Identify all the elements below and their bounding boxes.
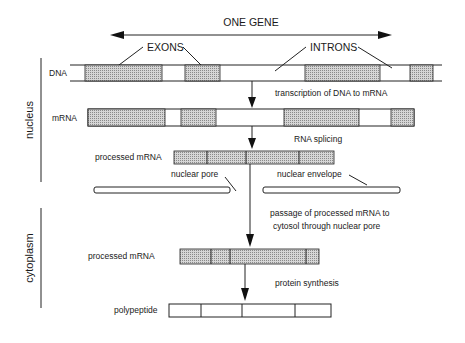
exons-label: EXONS bbox=[147, 41, 184, 53]
mrna-exon-1 bbox=[88, 109, 165, 126]
mrna-exon-3 bbox=[284, 109, 359, 126]
one-gene-span-arrow bbox=[110, 31, 392, 39]
processed-mrna-cytoplasm bbox=[180, 249, 319, 264]
mrna-label: mRNA bbox=[52, 113, 77, 123]
gene-title: ONE GENE bbox=[223, 16, 278, 28]
dna-strand bbox=[70, 65, 442, 81]
arrow-down-icon bbox=[248, 97, 256, 108]
mrna-strand bbox=[88, 109, 414, 126]
arrow-left-icon bbox=[110, 31, 124, 39]
arrow-down-icon bbox=[248, 138, 256, 149]
cytoplasm-label: cytoplasm bbox=[23, 233, 35, 283]
processed-mrna-cytoplasm-label: processed mRNA bbox=[88, 251, 155, 261]
processed-mrna-nucleus-label: processed mRNA bbox=[95, 152, 162, 162]
mrna-exon-4 bbox=[391, 109, 414, 126]
nuclear-envelope-label: nuclear envelope bbox=[277, 169, 342, 179]
dna-label: DNA bbox=[49, 68, 67, 78]
polypeptide-chain bbox=[169, 304, 331, 317]
passage-label-line2: cytosol through nuclear pore bbox=[273, 221, 381, 231]
dna-exon-2 bbox=[185, 65, 220, 81]
dna-exon-4 bbox=[410, 65, 433, 81]
passage-label-line1: passage of processed mRNA to bbox=[270, 208, 390, 218]
arrow-down-icon bbox=[241, 288, 249, 301]
protein-synthesis-label: protein synthesis bbox=[275, 278, 339, 288]
arrow-right-icon bbox=[378, 31, 392, 39]
nuclear-pore-label: nuclear pore bbox=[171, 169, 219, 179]
introns-label: INTRONS bbox=[310, 41, 357, 53]
mrna-exon-2 bbox=[181, 109, 216, 126]
gene-expression-diagram: ONE GENE EXONS INTRONS nucleus cytoplasm… bbox=[0, 0, 465, 343]
nuclear-envelope-leader bbox=[349, 175, 367, 185]
nucleus-label: nucleus bbox=[23, 101, 35, 139]
nuclear-envelope-left bbox=[94, 187, 230, 193]
introns-leader-1 bbox=[275, 47, 306, 71]
dna-exon-3 bbox=[305, 65, 380, 81]
dna-exon-1 bbox=[85, 65, 162, 81]
nuclear-envelope-right bbox=[263, 187, 400, 193]
arrow-down-icon bbox=[246, 234, 254, 247]
transcription-label: transcription of DNA to mRNA bbox=[275, 88, 388, 98]
polypeptide-label: polypeptide bbox=[114, 305, 158, 315]
processed-mrna-nucleus bbox=[174, 151, 334, 164]
splicing-label: RNA splicing bbox=[294, 134, 342, 144]
